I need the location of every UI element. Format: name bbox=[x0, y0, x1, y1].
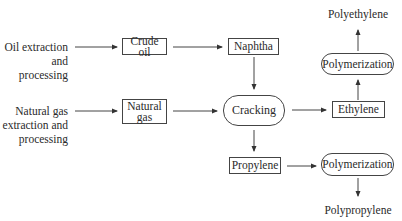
cracking-node: Cracking bbox=[223, 95, 285, 126]
cracking-label: Cracking bbox=[232, 105, 276, 116]
oil-source-label: Oil extraction and processing bbox=[0, 40, 68, 82]
gas-source-label: Natural gas extraction and processing bbox=[0, 104, 68, 146]
crude-oil-node: Crude oil bbox=[122, 38, 167, 55]
naphtha-label: Naphtha bbox=[234, 41, 273, 52]
oil-source-line-3: processing bbox=[0, 68, 68, 82]
gas-source-line-1: Natural gas bbox=[0, 104, 68, 118]
propylene-label: Propylene bbox=[232, 160, 279, 171]
natural-gas-node: Natural gas bbox=[122, 99, 167, 124]
propylene-node: Propylene bbox=[229, 157, 281, 174]
polymerization-bottom-node: Polymerization bbox=[321, 153, 394, 176]
crude-oil-label: Crude oil bbox=[123, 36, 166, 58]
natural-gas-label-2: gas bbox=[137, 112, 152, 123]
polymerization-top-node: Polymerization bbox=[321, 53, 394, 75]
gas-source-line-3: processing bbox=[0, 132, 68, 146]
polymerization-top-label: Polymerization bbox=[322, 59, 392, 70]
natural-gas-label-1: Natural bbox=[127, 101, 161, 112]
polymerization-bottom-label: Polymerization bbox=[322, 159, 392, 170]
ethylene-label: Ethylene bbox=[338, 104, 379, 115]
oil-source-line-1: Oil extraction bbox=[0, 40, 68, 54]
naphtha-node: Naphtha bbox=[228, 38, 279, 55]
polyethylene-label: Polyethylene bbox=[318, 7, 398, 21]
polypropylene-label: Polypropylene bbox=[316, 203, 400, 217]
gas-source-line-2: extraction and bbox=[0, 118, 68, 132]
ethylene-node: Ethylene bbox=[332, 101, 385, 118]
oil-source-line-2: and bbox=[0, 54, 68, 68]
